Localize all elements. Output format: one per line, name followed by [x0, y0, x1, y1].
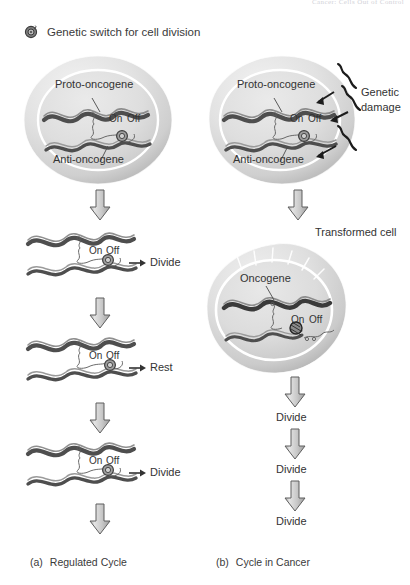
caption-a-index: (a): [30, 556, 43, 568]
chromatin-step-1: [26, 228, 144, 284]
flow-arrow-a-3: [88, 402, 112, 434]
legend-label: Genetic switch for cell division: [47, 26, 200, 38]
normal-cell: [22, 54, 174, 186]
label-proto-oncogene-b: Proto-oncogene: [237, 78, 315, 90]
genetic-damage-label-line1: Genetic: [361, 86, 399, 98]
divide-label-2: Divide: [276, 463, 307, 475]
outcome-label-step-2: Rest: [150, 361, 173, 373]
flow-arrow-b-divide-1: [283, 376, 307, 408]
genetic-damage-label-line2: damage: [361, 101, 401, 113]
label-proto-oncogene-a: Proto-oncogene: [55, 78, 133, 90]
label-anti-oncogene-a: Anti-oncogene: [53, 153, 124, 165]
divide-label-1: Divide: [276, 411, 307, 423]
caption-a-text: Regulated Cycle: [50, 556, 127, 568]
flow-arrow-a-1: [88, 189, 112, 221]
caption-b-index: (b): [216, 556, 229, 568]
divide-label-3: Divide: [276, 515, 307, 527]
transformed-cell-title: Transformed cell: [315, 226, 397, 238]
caption-a: (a)Regulated Cycle: [30, 556, 127, 568]
switch-on-label-transformed: On: [291, 314, 304, 325]
switch-off-label-transformed: Off: [309, 314, 322, 325]
switch-on-label-b: On: [290, 113, 303, 124]
outcome-arrow-step-1: [129, 259, 147, 267]
transformed-cell: [204, 240, 350, 376]
outcome-arrow-step-2: [129, 364, 147, 372]
chromatin-step-2: [26, 333, 144, 389]
caption-b-text: Cycle in Cancer: [236, 556, 310, 568]
flow-arrow-a-2: [88, 297, 112, 329]
switch-on-label-step-3: On: [89, 455, 102, 466]
switch-on-label-a: On: [109, 113, 122, 124]
legend: Genetic switch for cell division: [24, 24, 200, 39]
flow-arrow-b-divide-3: [283, 480, 307, 512]
damaged-cell: [206, 54, 358, 186]
label-anti-oncogene-b: Anti-oncogene: [233, 153, 304, 165]
outcome-label-step-3: Divide: [150, 466, 181, 478]
switch-off-label-a: Off: [127, 113, 140, 124]
switch-off-label-step-3: Off: [106, 455, 119, 466]
label-oncogene: Oncogene: [240, 272, 291, 284]
flow-arrow-b-divide-2: [283, 428, 307, 460]
chromatin-step-3: [26, 438, 144, 494]
switch-off-label-step-2: Off: [106, 350, 119, 361]
outcome-arrow-step-3: [129, 469, 147, 477]
flow-arrow-a-4: [88, 503, 112, 535]
outcome-label-step-1: Divide: [150, 256, 181, 268]
figure-root: Cancer: Cells Out of Control Genetic swi…: [0, 0, 410, 585]
flow-arrow-b-1: [286, 189, 310, 221]
switch-off-label-b: Off: [308, 113, 321, 124]
switch-off-label-step-1: Off: [106, 245, 119, 256]
genetic-switch-icon: [24, 24, 39, 39]
caption-b: (b)Cycle in Cancer: [216, 556, 310, 568]
switch-on-label-step-1: On: [89, 245, 102, 256]
switch-on-label-step-2: On: [89, 350, 102, 361]
running-head: Cancer: Cells Out of Control: [312, 0, 404, 6]
